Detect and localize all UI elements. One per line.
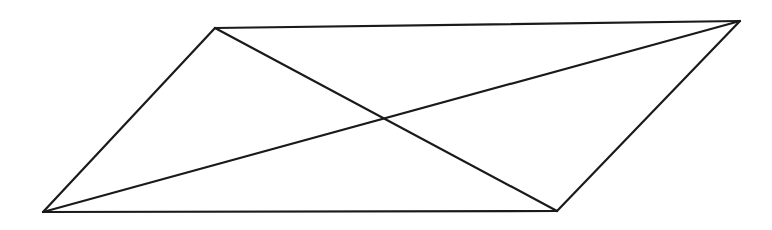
diagonal-top-left-to-bottom-right — [215, 28, 557, 211]
parallelogram-diagonals — [43, 21, 740, 212]
parallelogram-diagram — [0, 0, 772, 230]
right-edge — [557, 21, 740, 211]
bottom-edge — [43, 211, 557, 212]
diagonal-bottom-left-to-top-right — [43, 21, 740, 212]
top-edge — [215, 21, 740, 28]
left-edge — [43, 28, 215, 212]
diagram-svg — [0, 0, 772, 230]
